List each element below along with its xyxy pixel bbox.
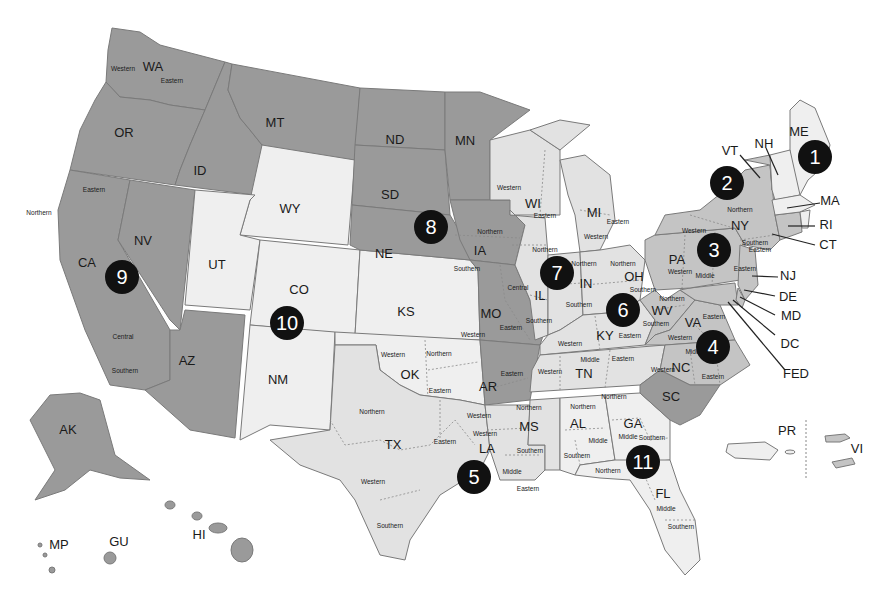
- circuit-marker-7[interactable]: 7: [540, 256, 574, 290]
- svg-text:ME: ME: [789, 124, 809, 139]
- svg-text:UT: UT: [208, 257, 225, 272]
- svg-text:MO: MO: [481, 306, 502, 321]
- svg-text:TN: TN: [575, 366, 592, 381]
- svg-text:SC: SC: [662, 389, 680, 404]
- svg-text:CT: CT: [819, 237, 836, 252]
- svg-text:MN: MN: [455, 133, 475, 148]
- svg-text:Western: Western: [682, 227, 706, 234]
- circuit-marker-10[interactable]: 10: [270, 306, 304, 340]
- state-sd[interactable]: [352, 145, 450, 215]
- svg-text:6: 6: [617, 299, 628, 321]
- svg-text:Western: Western: [473, 430, 497, 437]
- svg-text:CA: CA: [78, 255, 96, 270]
- svg-text:Southern: Southern: [630, 286, 657, 293]
- state-hi[interactable]: [165, 501, 253, 562]
- svg-text:NJ: NJ: [780, 268, 796, 283]
- svg-text:Eastern: Eastern: [501, 370, 524, 377]
- svg-text:Western: Western: [497, 184, 521, 191]
- svg-text:MI: MI: [587, 205, 601, 220]
- svg-text:Eastern: Eastern: [429, 387, 452, 394]
- svg-text:WI: WI: [525, 196, 541, 211]
- svg-text:NM: NM: [268, 372, 288, 387]
- svg-text:DC: DC: [781, 336, 800, 351]
- svg-text:Eastern: Eastern: [500, 324, 523, 331]
- circuit-marker-5[interactable]: 5: [457, 460, 491, 494]
- state-ak[interactable]: [30, 393, 150, 500]
- svg-text:MT: MT: [266, 115, 285, 130]
- svg-text:PA: PA: [669, 252, 686, 267]
- svg-text:Northern: Northern: [359, 408, 385, 415]
- svg-text:FL: FL: [655, 486, 670, 501]
- svg-text:ID: ID: [194, 163, 207, 178]
- svg-text:VI: VI: [851, 441, 863, 456]
- svg-text:IL: IL: [535, 288, 546, 303]
- svg-text:Northern: Northern: [610, 260, 636, 267]
- svg-text:Middle: Middle: [588, 437, 608, 444]
- svg-text:Middle: Middle: [618, 433, 638, 440]
- svg-text:AR: AR: [479, 379, 497, 394]
- circuit-marker-9[interactable]: 9: [105, 260, 139, 294]
- svg-text:2: 2: [721, 172, 732, 194]
- state-pa[interactable]: [645, 228, 745, 290]
- svg-text:AK: AK: [59, 422, 77, 437]
- svg-text:GU: GU: [109, 534, 129, 549]
- circuit-marker-2[interactable]: 2: [710, 166, 744, 200]
- svg-text:OR: OR: [114, 125, 134, 140]
- svg-text:Northern: Northern: [26, 209, 52, 216]
- svg-text:9: 9: [116, 266, 127, 288]
- svg-text:Middle: Middle: [695, 272, 715, 279]
- svg-text:MP: MP: [49, 537, 69, 552]
- svg-text:OH: OH: [624, 269, 644, 284]
- svg-text:Middle: Middle: [580, 356, 600, 363]
- svg-text:IA: IA: [474, 243, 487, 258]
- svg-text:WY: WY: [280, 201, 301, 216]
- svg-text:Southern: Southern: [564, 452, 591, 459]
- territory-gu[interactable]: [104, 552, 116, 564]
- svg-text:NH: NH: [755, 136, 774, 151]
- svg-text:FED: FED: [783, 366, 809, 381]
- svg-text:Eastern: Eastern: [83, 186, 106, 193]
- svg-text:7: 7: [551, 262, 562, 284]
- svg-text:IN: IN: [580, 276, 593, 291]
- territory-pr[interactable]: [726, 442, 795, 460]
- svg-text:WV: WV: [652, 303, 673, 318]
- svg-text:Northern: Northern: [532, 246, 558, 253]
- svg-text:Western: Western: [467, 412, 491, 419]
- svg-text:KS: KS: [397, 304, 415, 319]
- svg-text:Western: Western: [584, 233, 608, 240]
- state-ri[interactable]: [800, 210, 810, 228]
- svg-text:MA: MA: [820, 193, 840, 208]
- circuit-marker-3[interactable]: 3: [697, 233, 731, 267]
- svg-text:Western: Western: [668, 334, 692, 341]
- svg-text:Middle: Middle: [502, 468, 522, 475]
- svg-text:LA: LA: [479, 441, 495, 456]
- svg-text:Southern: Southern: [643, 320, 670, 327]
- svg-text:Central: Central: [508, 284, 530, 291]
- svg-text:HI: HI: [193, 527, 206, 542]
- svg-text:KY: KY: [596, 328, 614, 343]
- circuit-marker-8[interactable]: 8: [414, 210, 448, 244]
- svg-text:Northern: Northern: [426, 350, 452, 357]
- svg-text:Central: Central: [113, 333, 135, 340]
- svg-text:Eastern: Eastern: [702, 373, 725, 380]
- svg-text:Western: Western: [668, 268, 692, 275]
- circuit-marker-11[interactable]: 11: [626, 445, 660, 479]
- svg-text:Western: Western: [538, 368, 562, 375]
- svg-text:Western: Western: [558, 340, 582, 347]
- svg-text:NY: NY: [731, 218, 749, 233]
- circuit-marker-6[interactable]: 6: [606, 293, 640, 327]
- circuit-marker-1[interactable]: 1: [798, 140, 832, 174]
- svg-text:Northern: Northern: [570, 403, 596, 410]
- svg-text:RI: RI: [820, 217, 833, 232]
- svg-text:Southern: Southern: [517, 447, 544, 454]
- svg-text:Eastern: Eastern: [161, 77, 184, 84]
- circuit-marker-4[interactable]: 4: [696, 330, 730, 364]
- svg-text:Northern: Northern: [727, 206, 753, 213]
- svg-text:PR: PR: [778, 423, 796, 438]
- svg-text:Northern: Northern: [571, 260, 597, 267]
- svg-text:4: 4: [707, 336, 718, 358]
- svg-text:11: 11: [633, 451, 654, 473]
- svg-text:TX: TX: [385, 437, 402, 452]
- state-ks[interactable]: [355, 250, 480, 340]
- svg-text:NE: NE: [375, 246, 393, 261]
